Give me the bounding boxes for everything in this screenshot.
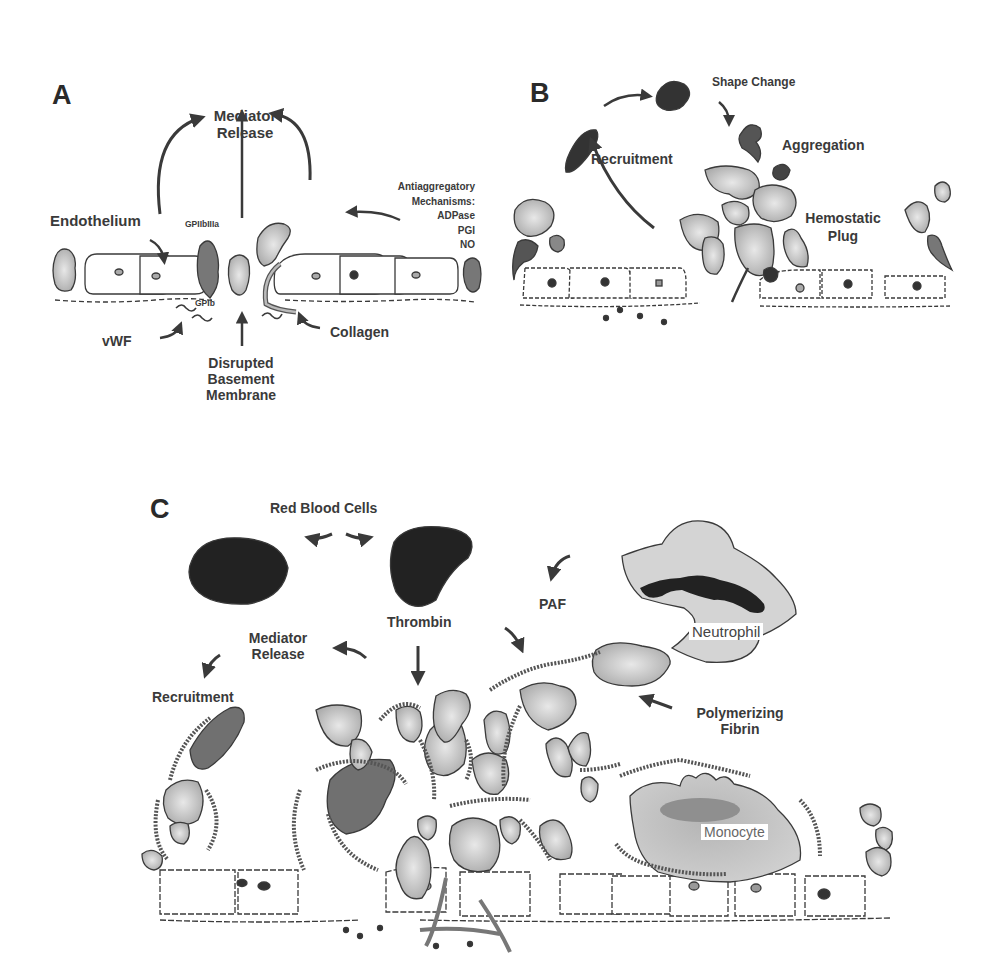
panel-a-mediator-line-1: Mediator <box>200 107 290 124</box>
antiaggregatory-line-2: Mechanisms: <box>360 195 475 210</box>
disrupted-line-2: Basement <box>196 371 286 387</box>
polymerizing-fibrin-label: Polymerizing Fibrin <box>685 705 795 737</box>
pgi-label: PGI <box>360 224 475 239</box>
panel-a-mediator-line-2: Release <box>200 124 290 141</box>
thrombin-label: Thrombin <box>387 614 452 630</box>
disrupted-line-3: Membrane <box>196 387 286 403</box>
adpase-label: ADPase <box>360 209 475 224</box>
panel-c-recruitment-label: Recruitment <box>152 689 234 705</box>
panel-c-letter: C <box>150 494 170 525</box>
no-label: NO <box>360 238 475 253</box>
hemostatic-plug-label: Hemostatic Plug <box>798 209 888 245</box>
antiaggregatory-line-1: Antiaggregatory <box>360 180 475 195</box>
shape-change-label: Shape Change <box>712 76 795 90</box>
vwf-label: vWF <box>102 333 132 349</box>
disrupted-basement-membrane-label: Disrupted Basement Membrane <box>196 355 286 403</box>
monocyte-label: Monocyte <box>701 824 768 840</box>
disrupted-line-1: Disrupted <box>196 355 286 371</box>
hemostatic-line-1: Hemostatic <box>798 209 888 227</box>
endothelium-label: Endothelium <box>50 212 141 229</box>
panel-c-mediator-release-label: Mediator Release <box>238 630 318 662</box>
neutrophil-label: Neutrophil <box>689 623 763 640</box>
panel-b-recruitment-label: Recruitment <box>591 151 673 167</box>
gp2b3a-label: GPIIbIIIa <box>185 220 219 230</box>
panel-a-mediator-release-label: Mediator Release <box>200 107 290 142</box>
paf-label: PAF <box>539 596 566 612</box>
panel-b-letter: B <box>530 78 550 109</box>
polymerizing-line-1: Polymerizing <box>685 705 795 721</box>
red-blood-cells-label: Red Blood Cells <box>270 500 377 516</box>
collagen-label: Collagen <box>330 324 389 340</box>
antiaggregatory-mechanisms-label: Antiaggregatory Mechanisms: ADPase PGI N… <box>360 180 475 253</box>
gp1b-label: GPIb <box>195 299 215 309</box>
hemostatic-line-2: Plug <box>798 227 888 245</box>
panel-a-letter: A <box>52 80 72 111</box>
panel-c-mediator-line-2: Release <box>238 646 318 662</box>
panel-c-mediator-line-1: Mediator <box>238 630 318 646</box>
polymerizing-line-2: Fibrin <box>685 721 795 737</box>
panel-b-art <box>513 81 952 324</box>
aggregation-label: Aggregation <box>782 137 864 153</box>
